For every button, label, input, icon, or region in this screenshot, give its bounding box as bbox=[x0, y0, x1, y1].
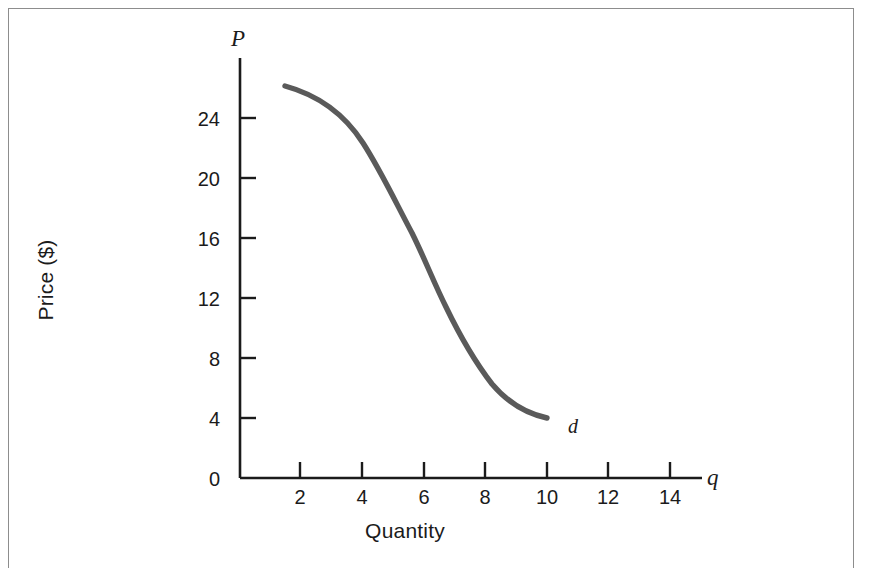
figure-container: P q d 0 4 8 12 16 20 24 2 4 6 8 10 12 14… bbox=[0, 0, 870, 575]
x-tick-label-8: 8 bbox=[465, 486, 505, 509]
y-tick-label-12: 12 bbox=[174, 288, 220, 311]
y-tick-label-16: 16 bbox=[174, 228, 220, 251]
x-axis-variable: q bbox=[707, 465, 719, 491]
y-axis-ticks bbox=[240, 118, 256, 418]
demand-curve bbox=[285, 86, 547, 418]
y-axis-variable: P bbox=[231, 26, 245, 52]
x-tick-label-4: 4 bbox=[342, 486, 382, 509]
x-tick-label-2: 2 bbox=[280, 486, 320, 509]
x-tick-label-12: 12 bbox=[588, 486, 628, 509]
y-tick-label-4: 4 bbox=[174, 408, 220, 431]
y-tick-label-8: 8 bbox=[174, 348, 220, 371]
demand-curve-label: d bbox=[568, 415, 578, 438]
y-axis-title: Price ($) bbox=[34, 150, 58, 410]
y-tick-label-0: 0 bbox=[174, 468, 220, 491]
y-tick-label-20: 20 bbox=[174, 168, 220, 191]
y-tick-label-24: 24 bbox=[174, 108, 220, 131]
x-tick-label-14: 14 bbox=[650, 486, 690, 509]
x-axis-ticks bbox=[300, 462, 670, 478]
x-tick-label-10: 10 bbox=[527, 486, 567, 509]
x-tick-label-6: 6 bbox=[404, 486, 444, 509]
x-axis-title: Quantity bbox=[0, 519, 870, 543]
